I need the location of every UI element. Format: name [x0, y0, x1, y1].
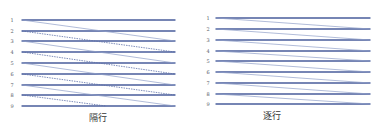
retrace-line [216, 83, 370, 94]
scan-comparison-diagram: 123456789 123456789 隔行 逐行 [0, 0, 381, 131]
interlaced-scan-diagram: 123456789 [10, 17, 175, 109]
row-number-label: 4 [10, 49, 13, 55]
row-number-label: 6 [206, 69, 209, 75]
retrace-line [216, 51, 370, 61]
even-field-retrace-line [22, 95, 106, 106]
row-number-label: 5 [206, 58, 209, 64]
interlaced-caption: 隔行 [89, 112, 107, 123]
row-number-label: 5 [10, 60, 13, 66]
row-number-label: 3 [206, 37, 209, 43]
row-number-label: 8 [10, 92, 13, 98]
row-number-label: 6 [10, 71, 13, 77]
row-number-label: 2 [10, 28, 13, 34]
progressive-scan-diagram: 123456789 [206, 15, 370, 107]
progressive-caption: 逐行 [263, 110, 281, 121]
retrace-line [216, 94, 370, 104]
row-number-label: 1 [206, 15, 209, 21]
retrace-line [216, 61, 370, 72]
row-number-label: 2 [206, 26, 209, 32]
row-number-label: 4 [206, 48, 209, 54]
row-number-label: 9 [10, 103, 13, 109]
row-number-label: 9 [206, 101, 209, 107]
row-number-label: 8 [206, 91, 209, 97]
row-number-label: 7 [10, 82, 13, 88]
retrace-line [216, 18, 370, 29]
row-number-label: 3 [10, 38, 13, 44]
retrace-line [216, 40, 370, 51]
retrace-line [216, 29, 370, 40]
retrace-line [216, 72, 370, 83]
row-number-label: 1 [10, 17, 13, 23]
row-number-label: 7 [206, 80, 209, 86]
